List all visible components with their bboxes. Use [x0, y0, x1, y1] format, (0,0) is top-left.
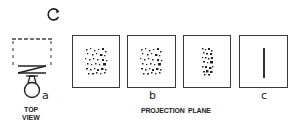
vertical-line	[263, 48, 265, 78]
scattered-dots	[139, 47, 165, 77]
projection-panel-3	[183, 35, 231, 88]
marker-c: c	[261, 89, 267, 102]
projection-plane-label: PROJECTION PLANE	[141, 107, 211, 114]
compressed-dots	[201, 47, 215, 77]
top-view-label-line2: VIEW	[22, 114, 40, 121]
top-view-label-line1: TOP	[24, 106, 38, 113]
projection-panel-4	[239, 35, 288, 88]
top-view-apparatus	[0, 0, 70, 110]
marker-a: a	[42, 89, 49, 102]
projection-panel-1	[72, 35, 120, 88]
marker-b: b	[149, 89, 156, 102]
projection-panel-2	[127, 35, 176, 88]
scattered-dots	[84, 47, 110, 77]
